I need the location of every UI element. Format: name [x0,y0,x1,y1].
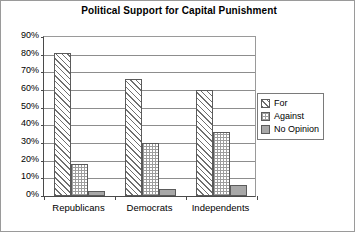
gridline [44,72,255,73]
y-axis-tick-label: 30% [1,136,39,146]
gridline [44,90,255,91]
legend-swatch-solid-gray [261,125,270,134]
bar-republicans-for [54,53,71,196]
y-axis-tick-label: 50% [1,101,39,111]
y-axis-labels: 90%80%70%60%50%40%30%20%10%0% [1,1,41,233]
gridline [44,125,255,126]
y-axis-tick [41,55,44,56]
y-axis-tick-label: 70% [1,65,39,75]
legend-swatch-diagonal-hatch [261,99,270,108]
bar-democrats-against [142,143,159,196]
legend-item-for[interactable]: For [261,97,319,110]
y-axis-tick [41,108,44,109]
legend-item-no-opinion[interactable]: No Opinion [261,123,319,136]
gridline [44,108,255,109]
x-axis-label-republicans: Republicans [43,202,114,213]
y-axis-tick [41,161,44,162]
y-axis-tick [41,90,44,91]
legend-label: No Opinion [274,124,319,135]
y-axis-tick-label: 10% [1,171,39,181]
y-axis-tick-label: 80% [1,48,39,58]
chart-title: Political Support for Capital Punishment [1,5,356,16]
legend-label: For [274,98,288,109]
y-axis-tick-label: 60% [1,83,39,93]
legend-label: Against [274,111,304,122]
y-axis-tick [41,143,44,144]
plot-area [43,36,256,197]
x-axis-label-democrats: Democrats [114,202,185,213]
bar-democrats-for [125,79,142,196]
y-axis-tick-label: 20% [1,154,39,164]
bar-independents-for [196,90,213,196]
y-axis-tick [41,37,44,38]
x-axis-tick [115,196,116,200]
chart-legend: ForAgainstNo Opinion [257,93,324,140]
x-axis-labels: RepublicansDemocratsIndependents [43,202,256,218]
bar-republicans-against [71,164,88,196]
x-axis-tick [257,196,258,200]
gridline [44,55,255,56]
y-axis-tick [41,72,44,73]
bar-independents-against [213,132,230,196]
legend-swatch-cross-hatch-dots [261,112,270,121]
y-axis-tick-label: 0% [1,189,39,199]
y-axis-tick [41,178,44,179]
x-axis-tick [186,196,187,200]
y-axis-tick-label: 90% [1,30,39,40]
y-axis-tick-label: 40% [1,118,39,128]
chart-frame: Political Support for Capital Punishment… [0,0,355,232]
x-axis-tick [44,196,45,200]
bar-democrats-no-opinion [159,189,176,196]
y-axis-tick [41,125,44,126]
bar-independents-no-opinion [230,185,247,196]
bar-republicans-no-opinion [88,191,105,196]
x-axis-label-independents: Independents [185,202,256,213]
legend-item-against[interactable]: Against [261,110,319,123]
